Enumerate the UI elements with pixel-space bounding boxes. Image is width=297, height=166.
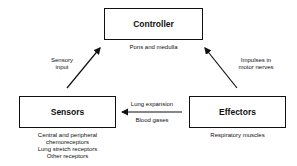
edge-label-line: Impulses in — [228, 57, 284, 64]
effectors-caption: Respiratory muscles — [189, 132, 286, 139]
controller-box: Controller — [104, 8, 203, 40]
controller-label: Controller — [133, 19, 174, 29]
effectors-box: Effectors — [189, 96, 286, 128]
sensors-box: Sensors — [19, 96, 116, 128]
sensors-caption: Central and peripheral chemoreceptors Lu… — [17, 132, 118, 160]
sensory-input-label: Sensory input — [42, 57, 82, 71]
sensors-caption-line: chemoreceptors — [17, 139, 118, 146]
controller-caption: Pons and medulla — [104, 44, 203, 51]
edge-label-line: Sensory — [42, 57, 82, 64]
edge-label-line: input — [42, 64, 82, 71]
sensors-caption-line: Central and peripheral — [17, 132, 118, 139]
sensors-caption-line: Lung stretch receptors — [17, 146, 118, 153]
sensors-caption-line: Other receptors — [17, 153, 118, 160]
effectors-label: Effectors — [219, 107, 256, 117]
motor-nerves-label: Impulses in motor nerves — [228, 57, 284, 71]
blood-gases-label: Blood gases — [120, 117, 184, 124]
sensors-label: Sensors — [51, 107, 85, 117]
edge-label-line: motor nerves — [228, 64, 284, 71]
lung-expansion-label: Lung expansion — [120, 101, 184, 108]
